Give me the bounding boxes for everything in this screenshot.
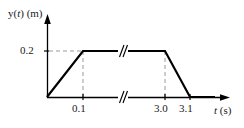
y-axis-label-suffix: ) (m) (20, 7, 42, 19)
x-tick-label-3.0: 3.0 (154, 103, 168, 114)
x-axis-label: t (s) (214, 105, 231, 116)
y-axis (44, 14, 51, 98)
curve-y-of-t (47, 51, 215, 97)
y-axis-label: y(t) (m) (8, 8, 43, 19)
y-axis-arrowhead (44, 14, 51, 24)
data-curve (47, 51, 215, 97)
x-axis-arrowhead (220, 94, 230, 101)
break-mark-x-axis (118, 91, 128, 103)
y-tick-label-0.2: 0.2 (20, 45, 34, 56)
break-mark-curve (118, 45, 128, 57)
guide-lines (49, 51, 165, 97)
x-tick-label-0.1: 0.1 (72, 103, 86, 114)
plot-figure: y(t) (m) t (s) 0.2 0.1 3.0 3.1 (0, 0, 244, 128)
x-axis-label-suffix: (s) (217, 104, 231, 116)
plot-canvas (0, 0, 244, 128)
x-tick-label-3.1: 3.1 (179, 103, 193, 114)
y-axis-label-prefix: y( (8, 7, 17, 19)
